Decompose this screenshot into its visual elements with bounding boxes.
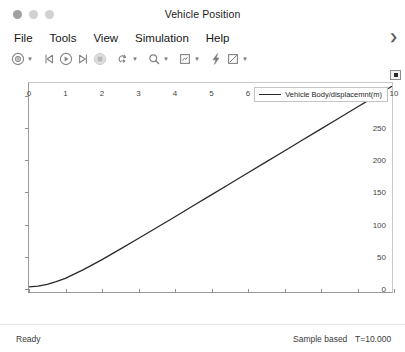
y-tick-label: 150 xyxy=(373,188,386,197)
menu-overflow-chevron-icon[interactable]: ❯ xyxy=(389,32,399,42)
status-state: Ready xyxy=(16,334,41,344)
statusbar: Ready Sample based T=10.000 xyxy=(0,324,405,352)
x-tick xyxy=(212,289,213,293)
step-forward-icon[interactable] xyxy=(74,51,91,68)
x-tick xyxy=(248,289,249,293)
status-time: T=10.000 xyxy=(355,334,391,344)
pan-icon[interactable] xyxy=(114,51,131,68)
y-tick-label: 50 xyxy=(377,252,386,261)
menu-item-simulation[interactable]: Simulation xyxy=(135,32,189,44)
pan-caret-icon[interactable]: ▼ xyxy=(131,51,139,67)
x-tick-label: 10 xyxy=(390,89,399,98)
x-tick xyxy=(139,289,140,293)
config-target-caret-icon[interactable]: ▼ xyxy=(26,51,34,67)
menubar: File Tools View Simulation Help ❯ xyxy=(0,28,405,48)
run-icon[interactable] xyxy=(57,51,74,68)
x-tick xyxy=(66,289,67,293)
y-tick xyxy=(25,225,29,226)
measurements-caret-icon[interactable]: ▼ xyxy=(241,51,249,67)
x-tick xyxy=(102,289,103,293)
menu-item-help[interactable]: Help xyxy=(206,32,230,44)
rewind-icon[interactable] xyxy=(40,51,57,68)
legend-swatch-icon xyxy=(259,94,281,95)
x-tick xyxy=(285,289,286,293)
config-target-icon[interactable] xyxy=(9,51,26,68)
toolbar: ▼ ▼ xyxy=(0,48,405,70)
y-tick xyxy=(25,289,29,290)
y-tick-label: 0 xyxy=(382,284,386,293)
y-tick xyxy=(25,160,29,161)
menu-item-view[interactable]: View xyxy=(93,32,118,44)
x-tick xyxy=(321,289,322,293)
series-path xyxy=(29,86,392,287)
x-tick-label: 1 xyxy=(63,89,67,98)
measurements-icon[interactable] xyxy=(224,51,241,68)
chart-axes[interactable]: 012345678910 050100150200250300 Vehicle … xyxy=(28,82,393,293)
maximize-axes-icon[interactable] xyxy=(390,70,401,80)
x-tick-label: 6 xyxy=(246,89,250,98)
trigger-icon[interactable] xyxy=(207,51,224,68)
y-tick xyxy=(25,257,29,258)
y-tick xyxy=(25,96,29,97)
fit-to-view-caret-icon[interactable]: ▼ xyxy=(193,51,201,67)
window-titlebar: Vehicle Position xyxy=(0,0,405,28)
x-tick xyxy=(175,289,176,293)
chart-series-line xyxy=(29,83,392,292)
x-tick-label: 3 xyxy=(136,89,140,98)
x-tick xyxy=(394,289,395,293)
y-tick-label: 100 xyxy=(373,220,386,229)
x-tick-label: 2 xyxy=(100,89,104,98)
x-tick-label: 5 xyxy=(209,89,213,98)
x-tick-label: 4 xyxy=(173,89,177,98)
zoom-icon[interactable] xyxy=(145,51,162,68)
plot-area: 012345678910 050100150200250300 Vehicle … xyxy=(0,70,405,325)
x-tick xyxy=(29,289,30,293)
y-tick-label: 250 xyxy=(373,124,386,133)
zoom-caret-icon[interactable]: ▼ xyxy=(162,51,170,67)
y-tick xyxy=(25,128,29,129)
status-mode: Sample based xyxy=(293,334,347,344)
y-tick xyxy=(25,192,29,193)
menu-item-file[interactable]: File xyxy=(14,32,33,44)
legend-label: Vehicle Body/displacemnt(m) xyxy=(285,90,382,99)
stop-icon[interactable] xyxy=(91,51,108,68)
fit-to-view-icon[interactable] xyxy=(176,51,193,68)
chart-legend[interactable]: Vehicle Body/displacemnt(m) xyxy=(254,87,388,102)
x-tick xyxy=(358,289,359,293)
y-tick-label: 200 xyxy=(373,156,386,165)
menu-item-tools[interactable]: Tools xyxy=(50,32,77,44)
window-title: Vehicle Position xyxy=(0,8,405,20)
